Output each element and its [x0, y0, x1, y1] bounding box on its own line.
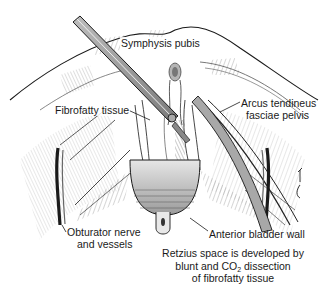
label-anterior-bladder-wall: Anterior bladder wall [209, 228, 305, 240]
label-symphysis-pubis: Symphysis pubis [120, 37, 201, 49]
caption-line2-pre: blunt and CO [175, 260, 237, 272]
caption-line2-post: dissection [241, 260, 291, 272]
medical-illustration: Symphysis pubis Fibrofatty tissue Arcus … [0, 0, 328, 289]
figure-caption: Retzius space is developed by blunt and … [158, 247, 308, 285]
bladder [130, 160, 200, 234]
label-obturator-line1: Obturator nerve [67, 226, 141, 238]
label-obturator-line2: and vessels [77, 238, 132, 250]
caption-line2: blunt and CO2 dissection [158, 260, 308, 273]
label-arcus-tendineus-line1: Arcus tendineus [241, 97, 316, 109]
caption-line3: of fibrofatty tissue [158, 272, 308, 285]
caption-line1: Retzius space is developed by [158, 247, 308, 260]
label-fibrofatty-tissue: Fibrofatty tissue [54, 104, 130, 116]
label-arcus-tendineus-line2: fasciae pelvis [246, 109, 309, 121]
